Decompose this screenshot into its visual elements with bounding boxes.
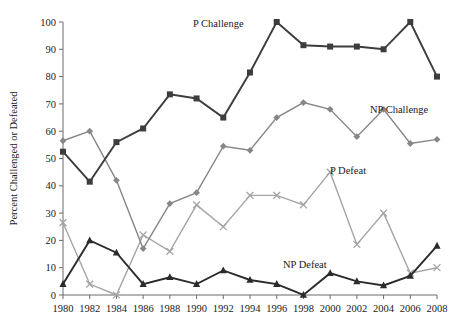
marker-square bbox=[327, 44, 333, 50]
x-tick-label: 1996 bbox=[266, 303, 287, 314]
marker-cross bbox=[300, 202, 307, 209]
x-tick-label: 1994 bbox=[240, 303, 262, 314]
x-tick-label: 1986 bbox=[133, 303, 154, 314]
y-tick-label: 100 bbox=[40, 17, 56, 28]
series-line bbox=[63, 22, 437, 182]
x-tick-label: 1990 bbox=[186, 303, 207, 314]
series-annotation-np-challenge: NP Challenge bbox=[370, 104, 429, 115]
series-annotation-p-defeat: P Defeat bbox=[330, 165, 366, 176]
x-tick-label: 2006 bbox=[400, 303, 421, 314]
y-tick-label: 80 bbox=[46, 71, 57, 82]
y-tick-label: 40 bbox=[46, 180, 57, 191]
marker-square bbox=[60, 149, 66, 155]
marker-square bbox=[220, 115, 226, 121]
marker-cross bbox=[140, 232, 147, 239]
series-p-challenge bbox=[60, 19, 440, 185]
x-tick-label: 1982 bbox=[79, 303, 100, 314]
line-chart: 0102030405060708090100198019821984198619… bbox=[0, 0, 454, 330]
marker-cross bbox=[86, 281, 93, 288]
marker-square bbox=[194, 95, 200, 101]
marker-square bbox=[274, 19, 280, 25]
y-tick-label: 70 bbox=[46, 99, 57, 110]
marker-diamond bbox=[86, 128, 93, 135]
marker-cross bbox=[193, 202, 200, 209]
marker-diamond bbox=[60, 137, 67, 144]
y-tick-label: 0 bbox=[51, 290, 56, 301]
chart-container: 0102030405060708090100198019821984198619… bbox=[0, 0, 454, 330]
series-np-defeat bbox=[59, 236, 440, 297]
marker-square bbox=[381, 46, 387, 52]
x-tick-label: 2004 bbox=[373, 303, 395, 314]
y-tick-label: 30 bbox=[46, 208, 57, 219]
series-line bbox=[63, 103, 437, 249]
marker-square bbox=[434, 74, 440, 80]
series-annotation-np-defeat: NP Defeat bbox=[283, 259, 327, 270]
y-tick-label: 90 bbox=[46, 44, 57, 55]
marker-square bbox=[247, 70, 253, 76]
marker-diamond bbox=[113, 177, 120, 184]
marker-square bbox=[354, 44, 360, 50]
marker-square bbox=[87, 179, 93, 185]
x-tick-label: 1988 bbox=[159, 303, 180, 314]
marker-cross bbox=[380, 210, 387, 217]
marker-triangle bbox=[220, 266, 227, 273]
x-tick-label: 1984 bbox=[106, 303, 128, 314]
marker-triangle bbox=[433, 242, 440, 249]
x-tick-label: 1980 bbox=[53, 303, 74, 314]
marker-diamond bbox=[166, 200, 173, 207]
marker-square bbox=[300, 42, 306, 48]
y-axis-title: Percent Challenged or Defeated bbox=[8, 91, 19, 226]
marker-triangle bbox=[166, 273, 173, 280]
x-tick-label: 1998 bbox=[293, 303, 314, 314]
x-tick-label: 2008 bbox=[427, 303, 448, 314]
marker-cross bbox=[353, 241, 360, 248]
marker-diamond bbox=[300, 99, 307, 106]
marker-triangle bbox=[327, 269, 334, 276]
y-tick-label: 60 bbox=[46, 126, 57, 137]
marker-diamond bbox=[434, 136, 441, 143]
marker-square bbox=[113, 139, 119, 145]
marker-diamond bbox=[140, 245, 147, 252]
series-np-challenge bbox=[60, 99, 441, 252]
marker-cross bbox=[166, 248, 173, 255]
marker-square bbox=[167, 91, 173, 97]
y-tick-label: 20 bbox=[46, 235, 57, 246]
x-tick-label: 1992 bbox=[213, 303, 234, 314]
x-tick-label: 2002 bbox=[346, 303, 367, 314]
x-tick-label: 2000 bbox=[320, 303, 341, 314]
marker-triangle bbox=[86, 236, 93, 243]
marker-diamond bbox=[220, 143, 227, 150]
marker-cross bbox=[220, 223, 227, 230]
marker-diamond bbox=[193, 189, 200, 196]
series-annotation-p-challenge: P Challenge bbox=[193, 18, 244, 29]
marker-square bbox=[407, 19, 413, 25]
y-tick-label: 10 bbox=[46, 262, 57, 273]
y-tick-label: 50 bbox=[46, 153, 57, 164]
marker-square bbox=[140, 125, 146, 131]
